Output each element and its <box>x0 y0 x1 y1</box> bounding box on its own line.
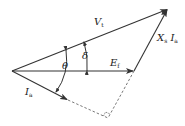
theta-label: θ <box>62 61 68 71</box>
vt-label: Vt <box>94 17 104 28</box>
ia-label-sub: a <box>29 91 33 98</box>
xs-ia-label: Xs Ia <box>157 33 178 44</box>
phasor-diagram: Vt Ef Ia Xs Ia θ δ <box>0 0 185 126</box>
ia-extension-dashed <box>68 100 108 118</box>
ef-label-sub: f <box>117 62 119 69</box>
ia-label: Ia <box>25 87 33 98</box>
vt-phasor <box>12 10 167 72</box>
delta-label: δ <box>82 51 88 61</box>
xs-i-label-sub: a <box>174 37 178 44</box>
ef-label: Ef <box>110 58 120 69</box>
perpendicular-dashed <box>108 71 134 118</box>
phasor-svg <box>0 0 185 126</box>
xs-label-sub: s <box>164 37 167 44</box>
ia-phasor <box>12 71 67 100</box>
vt-label-sub: t <box>101 21 103 28</box>
